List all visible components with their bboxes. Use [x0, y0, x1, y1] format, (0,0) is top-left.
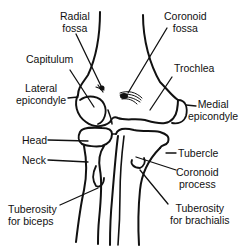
elbow-anatomy-diagram: Radial fossa Coronoid fossa Capitulum Tr… [0, 0, 244, 247]
radius-head [79, 128, 112, 147]
label-neck: Neck [22, 154, 46, 166]
humerus-distal-outline [76, 95, 178, 126]
label-coronoid-fossa-line1: Coronoid [164, 10, 207, 22]
biceps-tuberosity [93, 166, 104, 187]
leader-coronoid-process [136, 157, 176, 170]
label-trochlea-line1: Trochlea [174, 62, 214, 74]
label-trochlea: Trochlea [174, 62, 214, 74]
label-lateral-epicondyle-line2: epicondyle [16, 94, 66, 106]
label-tuberosity-brachialis-line1: Tuberosity [170, 202, 230, 214]
label-coronoid-process: Coronoid process [176, 166, 219, 190]
label-lateral-epicondyle-line1: Lateral [16, 82, 66, 94]
leader-tuberosity-brachialis [140, 170, 168, 204]
leader-neck [48, 160, 88, 162]
label-tuberosity-biceps: Tuberosity for biceps [8, 203, 57, 227]
label-coronoid-fossa: Coronoid fossa [164, 10, 207, 34]
label-tuberosity-brachialis-line2: for brachialis [170, 214, 230, 226]
label-coronoid-process-line1: Coronoid [176, 166, 219, 178]
label-radial-fossa: Radial fossa [60, 10, 90, 34]
label-medial-epicondyle-line1: Medial [188, 98, 238, 110]
label-radial-fossa-line1: Radial [60, 10, 90, 22]
leader-head [48, 140, 88, 141]
radius-shaft-right [98, 146, 104, 244]
label-tuberosity-biceps-line1: Tuberosity [8, 203, 57, 215]
leader-tuberosity-biceps [60, 188, 98, 205]
label-coronoid-process-line2: process [176, 178, 219, 190]
label-tubercle-line1: Tubercle [178, 147, 218, 159]
ulna-inner [118, 136, 124, 245]
label-neck-line1: Neck [22, 154, 46, 166]
label-head: Head [22, 134, 47, 146]
label-capitulum: Capitulum [26, 53, 73, 65]
label-coronoid-fossa-line2: fossa [164, 22, 207, 34]
label-capitulum-line1: Capitulum [26, 53, 73, 65]
ulna-shaft-left [110, 136, 118, 245]
label-medial-epicondyle: Medial epicondyle [188, 98, 238, 122]
label-tubercle: Tubercle [178, 147, 218, 159]
coronoid-fossa-shading [120, 92, 142, 104]
label-medial-epicondyle-line2: epicondyle [188, 110, 238, 122]
medial-epicondyle [172, 100, 187, 123]
label-lateral-epicondyle: Lateral epicondyle [16, 82, 66, 106]
radial-fossa-shading [96, 85, 105, 92]
label-radial-fossa-line2: fossa [60, 22, 90, 34]
label-tuberosity-brachialis: Tuberosity for brachialis [170, 202, 230, 226]
label-head-line1: Head [22, 134, 47, 146]
ulna-shaft-right [138, 148, 160, 245]
leader-capitulum [70, 70, 94, 107]
label-tuberosity-biceps-line2: for biceps [8, 215, 57, 227]
